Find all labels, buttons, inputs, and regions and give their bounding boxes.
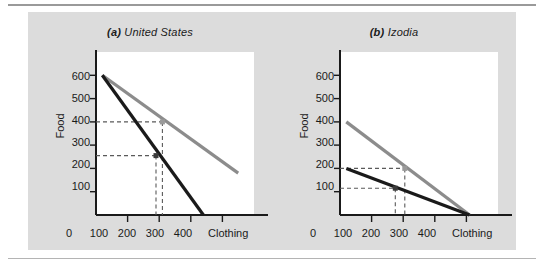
panel-b-marker-i bbox=[402, 166, 407, 171]
chart-panel-izodia: (b) Izodia Food 600 500 400 300 200 100 … bbox=[272, 12, 516, 250]
top-divider-rule bbox=[8, 4, 536, 6]
panel-a-marker-u bbox=[160, 119, 165, 124]
panel-b-marker-i3 bbox=[393, 186, 398, 191]
panel-a-marker-u4 bbox=[154, 153, 159, 158]
panel-a-plot-area bbox=[96, 52, 254, 215]
panel-a-plot-svg bbox=[28, 12, 272, 250]
figure-container: (a) United States Food 600 500 400 300 2… bbox=[0, 0, 544, 266]
panel-b-plot-svg bbox=[272, 12, 516, 250]
bottom-divider-rule bbox=[8, 258, 536, 259]
chart-panel-united-states: (a) United States Food 600 500 400 300 2… bbox=[28, 12, 272, 250]
